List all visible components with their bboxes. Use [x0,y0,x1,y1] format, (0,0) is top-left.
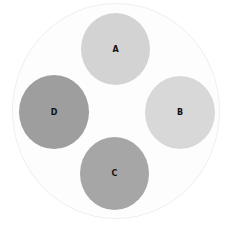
circle-c-label: C [112,169,118,178]
circle-a-label: A [112,45,118,54]
circle-d: D [19,75,89,149]
circle-c: C [80,137,149,210]
circle-b: B [145,76,215,149]
circle-d-label: D [51,108,58,117]
circle-a: A [81,13,150,85]
circle-b-label: B [177,108,183,117]
